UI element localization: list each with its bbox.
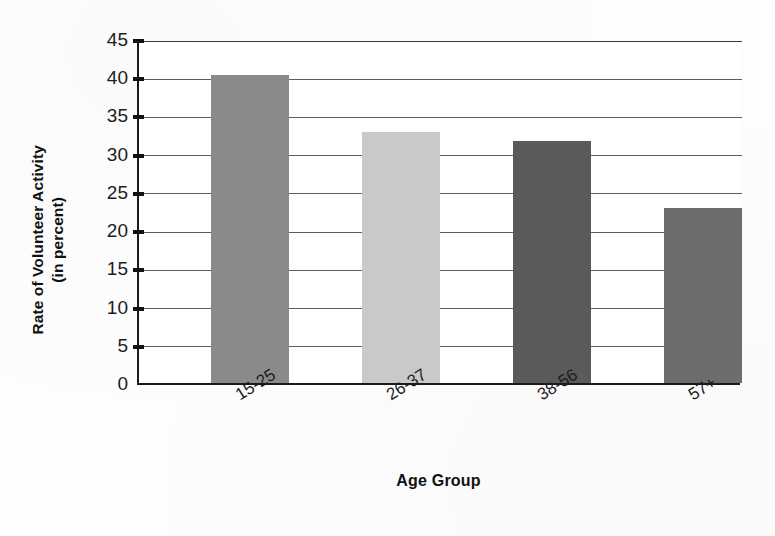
y-tick-15 bbox=[133, 268, 144, 272]
bar-57+ bbox=[664, 208, 742, 383]
bar-38-56 bbox=[513, 141, 591, 383]
x-axis-tick-labels: 15-2526-3738-5657+ bbox=[137, 388, 740, 468]
y-tick-35 bbox=[133, 115, 144, 119]
y-axis-title-line-1: Rate of Volunteer Activity bbox=[28, 80, 48, 400]
y-tick-20 bbox=[133, 230, 144, 234]
y-tick-40 bbox=[133, 77, 144, 81]
y-axis-label-40: 40 bbox=[86, 67, 128, 89]
y-axis-title: Rate of Volunteer Activity (in percent) bbox=[28, 80, 68, 400]
y-tick-10 bbox=[133, 307, 144, 311]
y-tick-45 bbox=[133, 39, 144, 43]
y-tick-30 bbox=[133, 154, 144, 158]
y-axis-label-25: 25 bbox=[86, 182, 128, 204]
y-axis-label-20: 20 bbox=[86, 220, 128, 242]
bar-15-25 bbox=[211, 75, 289, 383]
y-axis-label-0: 0 bbox=[86, 373, 128, 395]
y-tick-25 bbox=[133, 192, 144, 196]
y-axis-title-line-2: (in percent) bbox=[48, 80, 68, 400]
y-axis-label-35: 35 bbox=[86, 105, 128, 127]
bar-26-37 bbox=[362, 132, 440, 384]
y-axis-label-5: 5 bbox=[86, 335, 128, 357]
y-tick-5 bbox=[133, 345, 144, 349]
gridline-45 bbox=[139, 41, 742, 42]
x-axis-title: Age Group bbox=[137, 472, 740, 490]
plot-area bbox=[137, 41, 740, 385]
y-axis-label-30: 30 bbox=[86, 144, 128, 166]
y-axis-label-45: 45 bbox=[86, 29, 128, 51]
y-axis-label-15: 15 bbox=[86, 258, 128, 280]
volunteer-activity-bar-chart: Rate of Volunteer Activity (in percent) … bbox=[0, 0, 775, 536]
y-axis-label-10: 10 bbox=[86, 297, 128, 319]
y-axis-tick-labels: 051015202530354045 bbox=[82, 41, 128, 385]
